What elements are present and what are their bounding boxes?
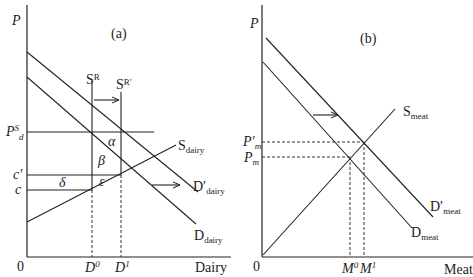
panel-a-title: (a) (111, 26, 127, 42)
d-meat-prime-label: D′meat (430, 199, 461, 216)
m0-label: M0 (341, 260, 359, 276)
d-meat-prime-curve (266, 38, 433, 217)
panel-a-x-label: Dairy (195, 260, 227, 275)
epsilon-area-label: ε (99, 174, 105, 189)
panel-b-origin-label: 0 (253, 259, 260, 274)
d-dairy-prime-curve (27, 52, 198, 192)
panel-b-x-label: Meat (444, 262, 473, 277)
sr-label: SR (86, 72, 100, 87)
s-meat-curve (263, 109, 395, 255)
c-label: c (15, 182, 22, 197)
c-prime-label: c′ (13, 167, 23, 182)
panel-a-y-label: P (11, 13, 21, 28)
panel-b-title: (b) (360, 31, 377, 47)
alpha-area-label: α (108, 134, 116, 149)
d-meat-curve (263, 62, 412, 228)
m1-label: M1 (359, 260, 376, 276)
pm-label: Pm (243, 150, 260, 167)
d-dairy-curve (27, 77, 196, 224)
panel-a-origin-label: 0 (17, 259, 24, 274)
psd-label: PSd (5, 123, 24, 142)
beta-area-label: β (97, 153, 105, 168)
sr-prime-label: SR′ (116, 77, 132, 92)
s-dairy-label: Sdairy (178, 138, 205, 155)
delta-area-label: δ (59, 175, 66, 190)
pm-prime-label: P′m (242, 134, 262, 151)
d-dairy-label: Ddairy (194, 228, 223, 245)
panel-b-meat: P (b) Smeat D′meat Dmeat P′m Pm 0 M0 M1 … (242, 5, 473, 277)
d1-label: D1 (114, 259, 130, 275)
s-meat-label: Smeat (403, 104, 429, 121)
panel-b-y-label: P (249, 16, 259, 31)
d0-label: D0 (84, 259, 100, 275)
supply-demand-diagram: P (a) SR SR′ Sdairy D′dairy Ddairy PSd c… (0, 0, 473, 277)
panel-a-dairy: P (a) SR SR′ Sdairy D′dairy Ddairy PSd c… (5, 5, 231, 275)
d-meat-label: Dmeat (411, 225, 439, 242)
d-dairy-prime-label: D′dairy (193, 179, 225, 196)
